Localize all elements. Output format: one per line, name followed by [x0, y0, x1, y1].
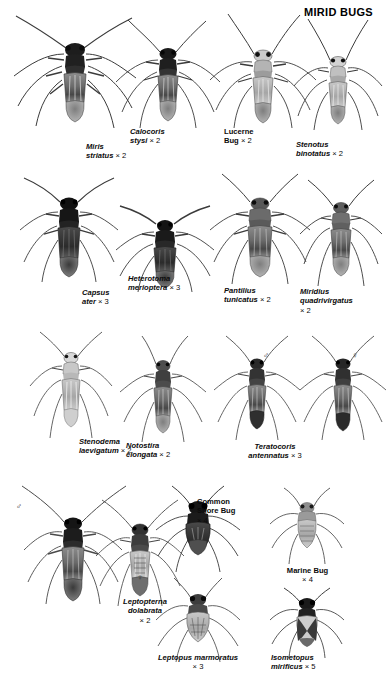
caption-common-shore-bug: Common Shore Bug × 4	[197, 497, 235, 525]
magnification: × 2	[116, 151, 127, 160]
magnification: × 2	[332, 149, 343, 158]
magnification: × 5	[305, 662, 316, 671]
magnification: × 3	[193, 662, 204, 671]
caption-teratocoris-antennatus: Teratocoris antennatus × 3	[225, 442, 325, 461]
specimen-marine-bug	[262, 488, 352, 568]
caption-stenotus-binotatus: Stenotus binotatus × 2	[296, 140, 343, 159]
magnification: × 2	[159, 450, 170, 459]
caption-heterotoma-merioptera: Heterotoma merioptera × 3	[128, 274, 180, 293]
species-name: Miridius quadrivirgatus	[300, 287, 353, 305]
species-name: Teratocoris antennatus	[248, 442, 295, 460]
common-name: Marine Bug	[287, 566, 328, 575]
specimen-leptopus-marmoratus	[148, 578, 248, 663]
caption-capsus-ater: Capsus ater × 3	[82, 288, 109, 307]
species-name: Notostira elongata	[126, 441, 159, 459]
species-name: Stenotus binotatus	[296, 140, 330, 158]
caption-isometopus-mirificus: Isometopus mirificus × 5	[271, 653, 316, 672]
magnification: × 2	[149, 136, 160, 145]
caption-leptopus-marmoratus: Leptopus marmoratus × 3	[118, 653, 278, 672]
caption-miris-striatus: Miris striatus × 2	[86, 142, 126, 161]
magnification: × 2	[260, 295, 271, 304]
sex-symbol-female: ♀	[137, 574, 143, 582]
species-name: Pantilius tunicatus	[224, 286, 258, 304]
specimen-isometopus-mirificus	[262, 586, 352, 661]
specimen-miridius-quadrivirgatus	[296, 178, 386, 290]
species-name: Heterotoma merioptera	[128, 274, 170, 292]
sex-symbol-male: ♂	[16, 503, 22, 511]
magnification: × 2	[241, 136, 252, 145]
caption-marine-bug: Marine Bug × 4	[255, 566, 360, 585]
sex-symbol-male: ♂	[263, 352, 269, 360]
caption-calocoris-stysi: Calocoris stysi × 2	[130, 127, 165, 146]
specimen-teratocoris-antennatus-female	[292, 334, 390, 444]
specimen-stenotus-binotatus	[288, 16, 388, 134]
common-name: Common Shore Bug	[197, 497, 235, 515]
caption-lucerne-bug: Lucerne Bug × 2	[224, 127, 254, 146]
magnification: × 2	[300, 306, 311, 315]
sex-symbol-female: ♀	[352, 352, 358, 360]
species-name: Miris striatus	[86, 142, 113, 160]
species-name: Leptopus marmoratus	[158, 653, 238, 662]
caption-miridius-quadrivirgatus: Miridius quadrivirgatus × 2	[300, 287, 353, 315]
magnification: × 4	[302, 575, 313, 584]
specimen-notostira-elongata	[110, 336, 220, 446]
magnification: × 4	[197, 516, 208, 525]
magnification: × 3	[98, 297, 109, 306]
magnification: × 3	[169, 283, 180, 292]
magnification: × 3	[291, 451, 302, 460]
caption-notostira-elongata: Notostira elongata × 2	[126, 441, 170, 460]
caption-pantilius-tunicatus: Pantilius tunicatus × 2	[224, 286, 271, 305]
